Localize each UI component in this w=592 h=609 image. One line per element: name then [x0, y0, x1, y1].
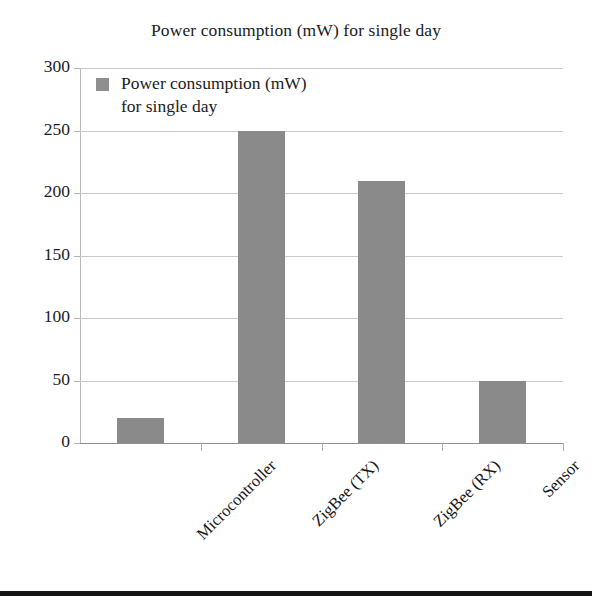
bar: [358, 181, 405, 444]
legend-label-line1: Power consumption (mW): [121, 72, 307, 95]
y-axis-tick-label: 300: [8, 56, 70, 77]
y-axis-tick-label: 100: [8, 306, 70, 327]
x-axis-category-label: Microcontroller: [193, 456, 281, 544]
bar: [238, 131, 285, 444]
chart-title: Power consumption (mW) for single day: [0, 20, 592, 41]
x-axis-category-label: ZigBee (RX): [429, 456, 504, 531]
gridline: [80, 318, 563, 319]
y-axis-tick-label: 200: [8, 181, 70, 202]
gridline: [80, 256, 563, 257]
legend-label: Power consumption (mW) for single day: [121, 72, 307, 118]
y-axis-tick-label: 50: [8, 369, 70, 390]
y-axis-tick-label: 150: [8, 244, 70, 265]
legend-label-line2: for single day: [121, 95, 307, 118]
y-axis-tick-label: 0: [8, 431, 70, 452]
y-axis-tick-label: 250: [8, 119, 70, 140]
x-axis-tick-mark: [563, 443, 564, 451]
footer-rule: [0, 591, 592, 596]
x-axis-tick-mark: [442, 443, 443, 451]
x-axis-category-label: ZigBee (TX): [308, 456, 383, 531]
bar: [479, 381, 526, 444]
gridline: [80, 68, 563, 69]
legend-swatch-icon: [96, 78, 109, 91]
chart-legend: Power consumption (mW) for single day: [96, 72, 307, 118]
bar: [117, 418, 164, 443]
gridline: [80, 193, 563, 194]
plot-area: [80, 68, 563, 443]
gridline: [80, 131, 563, 132]
x-axis-tick-mark: [201, 443, 202, 451]
bar-chart-figure: Power consumption (mW) for single day 05…: [0, 0, 592, 609]
x-axis-tick-mark: [322, 443, 323, 451]
x-axis-category-label: Sensor: [538, 456, 584, 502]
